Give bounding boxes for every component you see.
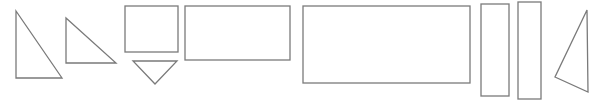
right-triangle-large xyxy=(16,11,62,78)
inverted-triangle xyxy=(133,61,177,84)
right-triangle-medium xyxy=(66,18,116,63)
rectangle-large xyxy=(303,6,470,83)
scalene-triangle xyxy=(555,10,588,92)
rectangle-medium xyxy=(185,6,290,60)
shapes-diagram xyxy=(0,0,592,100)
tall-rectangle-left xyxy=(481,4,509,96)
tall-rectangle-right xyxy=(518,2,541,99)
square xyxy=(125,6,178,52)
